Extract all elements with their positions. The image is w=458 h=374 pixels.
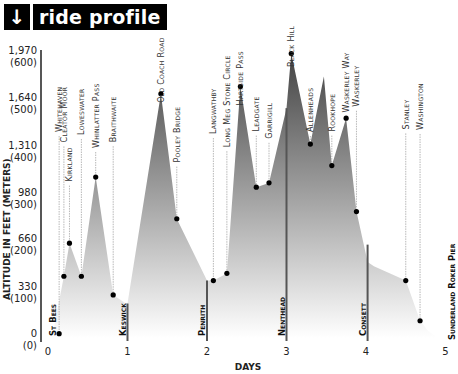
x-tick: 0 [45, 346, 51, 357]
town-label: Keswick [118, 303, 128, 336]
waypoint-label: Leadgate [252, 96, 261, 131]
y-tick-feet: 980 [18, 187, 37, 198]
waypoint-marker [79, 274, 84, 279]
y-tick-feet: 0 [31, 328, 37, 339]
y-axis-title: ALTITUDE IN FEET (METERS) [2, 158, 12, 300]
town-label: Penrith [197, 305, 207, 336]
waypoint-marker [266, 180, 271, 185]
waypoint-marker [224, 271, 229, 276]
y-tick-meters: (500) [10, 104, 37, 115]
waypoint-label: Old Coach Road [157, 37, 166, 102]
waypoint-label: Waskerley [352, 66, 361, 107]
y-tick-feet: 1,310 [8, 140, 37, 151]
x-tick: 3 [283, 346, 289, 357]
x-tick: 5 [442, 346, 448, 357]
waypoint-label: Loweswater [77, 88, 86, 135]
waypoint-label: Black Hill [287, 26, 296, 67]
waypoint-label: Hartside Pass [236, 51, 245, 106]
waypoint-marker [57, 331, 62, 336]
y-tick-meters: (300) [10, 199, 37, 210]
waypoint-marker [111, 292, 116, 297]
waypoint-label: Rookhope [328, 94, 337, 132]
y-tick-feet: 1,640 [8, 92, 37, 103]
waypoint-marker [329, 163, 334, 168]
y-tick-meters: (400) [10, 152, 37, 163]
waypoint-marker [308, 141, 313, 146]
y-tick-feet: 1,970 [8, 45, 37, 56]
waypoint-marker [211, 278, 216, 283]
waypoint-marker [403, 278, 408, 283]
waypoint-label: Braithwaite [109, 96, 118, 142]
waypoint-marker [354, 209, 359, 214]
waypoint-label: Langwathby [209, 88, 218, 134]
y-tick-meters: (0) [23, 340, 37, 351]
waypoint-marker [67, 241, 72, 246]
waypoint-label: Waskerley Way [342, 52, 351, 112]
waypoint-marker [61, 274, 66, 279]
waypoint-label: Cleator Moor [60, 87, 69, 143]
y-tick-meters: (200) [10, 245, 37, 256]
x-tick: 4 [363, 346, 369, 357]
waypoint-label: Allenheads [306, 88, 315, 132]
y-tick-meters: (100) [10, 293, 37, 304]
town-label: Nenthead [277, 297, 287, 336]
town-label: St Bees [48, 304, 58, 336]
waypoint-label: Long Meg Stone Circle [223, 55, 232, 147]
waypoint-marker [93, 175, 98, 180]
waypoint-label: Pooley Bridge [173, 107, 182, 163]
waypoint-label: Garrigill [265, 102, 274, 139]
waypoint-label: Whinlatter Pass [92, 83, 101, 148]
waypoint-label: Stanley [402, 100, 411, 130]
y-tick-feet: 660 [18, 233, 37, 244]
waypoint-marker [174, 216, 179, 221]
x-axis-title: DAYS [235, 362, 262, 372]
waypoint-marker [254, 185, 259, 190]
waypoint-label: Kirkland [65, 147, 74, 181]
town-label: Consett [358, 302, 368, 336]
y-tick-feet: 330 [18, 281, 37, 292]
town-label: Sunderland Roker Pier [447, 243, 457, 340]
ride-profile-chart: St BeesKeswickPenrithNentheadConsettSund… [0, 0, 458, 374]
waypoint-marker [344, 116, 349, 121]
waypoint-label: Washington [416, 83, 425, 130]
x-tick: 2 [204, 346, 210, 357]
x-tick: 1 [124, 346, 130, 357]
y-tick-meters: (600) [10, 57, 37, 68]
waypoint-marker [417, 318, 422, 323]
